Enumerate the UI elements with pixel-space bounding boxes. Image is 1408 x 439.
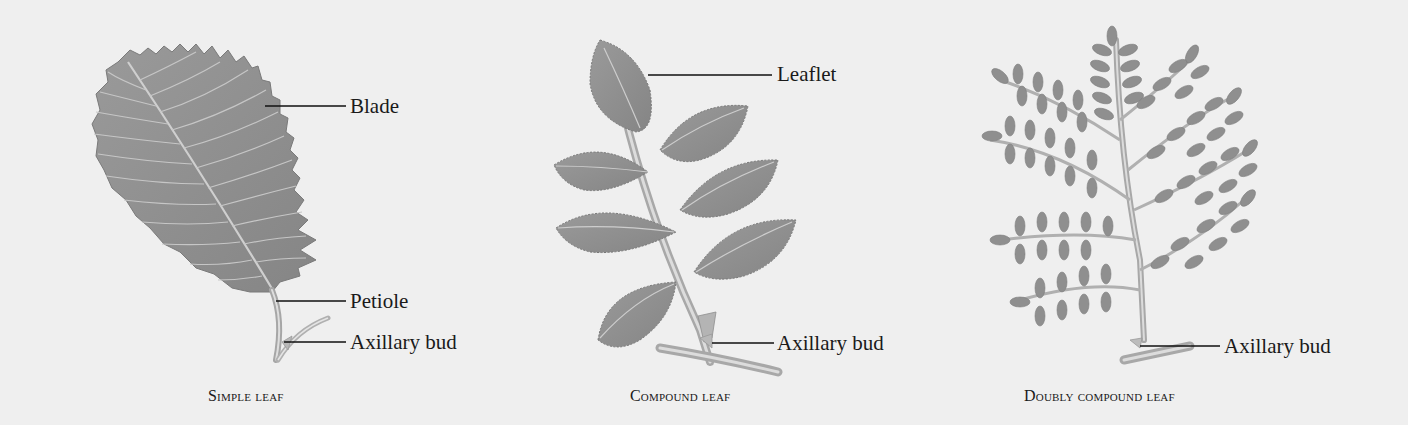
- simple-leaf-drawing: [92, 44, 346, 360]
- leaflet-group: [982, 26, 1260, 326]
- leaf-illustrations: [0, 0, 1408, 425]
- figure-canvas: Blade Petiole Axillary bud Simple leaf L…: [0, 0, 1408, 425]
- label-axillary-bud-simple: Axillary bud: [350, 332, 457, 353]
- caption-doubly-compound-leaf: Doubly compound leaf: [1024, 388, 1175, 404]
- caption-compound-leaf: Compound leaf: [630, 388, 730, 404]
- label-petiole: Petiole: [350, 291, 408, 312]
- label-axillary-bud-doubly: Axillary bud: [1224, 336, 1331, 357]
- doubly-compound-leaf-drawing: [982, 26, 1260, 360]
- label-blade: Blade: [350, 96, 399, 117]
- compound-leaf-drawing: [554, 40, 796, 372]
- label-leaflet: Leaflet: [777, 64, 836, 85]
- caption-simple-leaf: Simple leaf: [208, 388, 284, 404]
- label-axillary-bud-compound: Axillary bud: [777, 333, 884, 354]
